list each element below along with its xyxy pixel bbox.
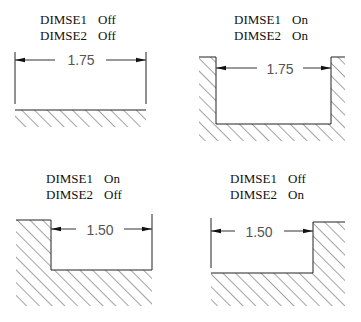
dimse1-label: DIMSE1: [234, 12, 281, 27]
dimension-text: 1.50: [86, 222, 113, 238]
dimse2-value: On: [288, 187, 304, 202]
dimse2-label: DIMSE2: [46, 187, 93, 202]
dimse2-value: On: [292, 28, 308, 43]
dimse-diagram: DIMSE1 Off DIMSE2 Off 1.75 DIMSE1 On DIM…: [0, 0, 361, 322]
dimse1-label: DIMSE1: [40, 12, 87, 27]
dimension-text: 1.75: [67, 52, 94, 68]
dimse2-value: Off: [104, 187, 122, 202]
hatched-part: [15, 110, 146, 127]
panel-top-left: DIMSE1 Off DIMSE2 Off 1.75: [15, 12, 146, 127]
panel-bottom-right: DIMSE1 Off DIMSE2 On 1.50: [211, 171, 345, 306]
dimse2-value: Off: [98, 28, 116, 43]
dimse1-label: DIMSE1: [230, 171, 277, 186]
dimse1-value: Off: [288, 171, 306, 186]
hatched-part: [211, 222, 345, 306]
hatched-part: [16, 220, 152, 306]
dimse2-label: DIMSE2: [230, 187, 277, 202]
dimse1-value: Off: [98, 12, 116, 27]
panel-bottom-left: DIMSE1 On DIMSE2 Off 1.50: [16, 171, 152, 306]
panel-top-right: DIMSE1 On DIMSE2 On 1.75: [199, 12, 345, 141]
dimse1-value: On: [104, 171, 120, 186]
dimension-text: 1.75: [266, 61, 293, 77]
dimse1-label: DIMSE1: [46, 171, 93, 186]
dimse1-value: On: [292, 12, 308, 27]
dimse2-label: DIMSE2: [40, 28, 87, 43]
dimse2-label: DIMSE2: [234, 28, 281, 43]
dimension-text: 1.50: [245, 224, 272, 240]
